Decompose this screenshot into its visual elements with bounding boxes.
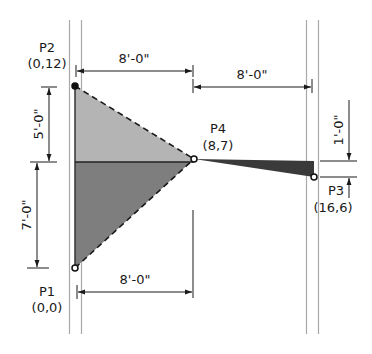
point-p1-marker	[72, 265, 78, 271]
dim-left-upper-label: 5'-0"	[31, 109, 46, 140]
dim-bottom-label: 8'-0"	[120, 272, 151, 287]
point-p2-marker	[72, 83, 78, 89]
point-p1-coords: (0,0)	[32, 300, 63, 315]
truss-diagram: 8'-0" 8'-0" 8'-0" 5'-0" 7'-0" 1'-0" P2 (…	[0, 0, 372, 354]
dim-right-offset-label: 1'-0"	[331, 115, 346, 146]
point-p3-name: P3	[328, 183, 344, 198]
point-p3-coords: (16,6)	[313, 200, 352, 215]
tail-wedge	[194, 159, 314, 177]
point-p4-coords: (8,7)	[203, 138, 234, 153]
dim-top-right-label: 8'-0"	[237, 67, 268, 82]
point-p2-name: P2	[39, 40, 55, 55]
point-p3-marker	[311, 174, 317, 180]
dim-top-left-label: 8'-0"	[119, 51, 150, 66]
dim-left-lower-label: 7'-0"	[19, 200, 34, 231]
dim-top-left	[76, 65, 193, 77]
point-p2-coords: (0,12)	[27, 56, 66, 71]
point-p1-name: P1	[39, 284, 55, 299]
point-p4-name: P4	[210, 121, 226, 136]
point-p4-marker	[191, 156, 197, 162]
